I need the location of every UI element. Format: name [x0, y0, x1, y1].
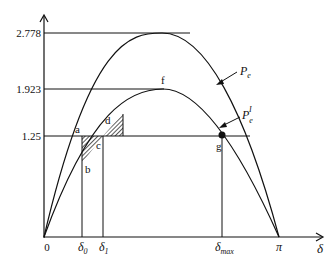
ytick-2778: 2.778 [16, 27, 41, 39]
origin-label: 0 [44, 241, 50, 253]
xtick-delta0: δ0 [78, 240, 88, 256]
xtick-delta1: δ1 [99, 240, 109, 256]
point-a-label: a [75, 123, 80, 135]
power-angle-diagram: 2.778 1.923 1.25 0 δ0 δ1 δmax π δ Pe PeI… [0, 0, 335, 264]
pe-prime-pointer-arrow-icon [219, 122, 227, 128]
point-c-label: c [96, 139, 101, 151]
point-b-label: b [85, 163, 91, 175]
x-axis-label: δ [317, 241, 324, 256]
curve-pe-label: Pe [239, 64, 251, 80]
point-g-marker [219, 132, 226, 139]
curve-pe-prime-label: PeI [241, 105, 253, 125]
point-f-label: f [161, 74, 165, 86]
point-d-label: d [105, 114, 111, 126]
ytick-1923: 1.923 [16, 83, 41, 95]
ytick-125: 1.25 [22, 130, 42, 142]
point-g-label: g [216, 140, 222, 152]
xtick-pi: π [276, 240, 283, 254]
xtick-deltamax: δmax [215, 240, 234, 256]
